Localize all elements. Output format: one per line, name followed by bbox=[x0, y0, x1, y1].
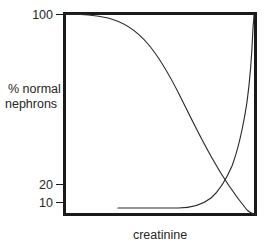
curve-percent-normal-nephrons bbox=[64, 14, 256, 215]
chart-figure: 100 20 10 % normal nephrons creatinine bbox=[0, 0, 270, 246]
y-tick-label-10: 10 bbox=[39, 196, 53, 210]
y-axis-title-line2: nephrons bbox=[5, 97, 57, 111]
plot-frame bbox=[65, 14, 256, 215]
x-axis-title: creatinine bbox=[133, 228, 187, 242]
chart-canvas: 100 20 10 % normal nephrons creatinine bbox=[0, 0, 270, 246]
y-tick-label-20: 20 bbox=[39, 178, 53, 192]
y-tick-label-100: 100 bbox=[32, 8, 53, 22]
curve-creatinine bbox=[118, 14, 254, 208]
y-axis-title-line1: % normal bbox=[8, 82, 61, 96]
